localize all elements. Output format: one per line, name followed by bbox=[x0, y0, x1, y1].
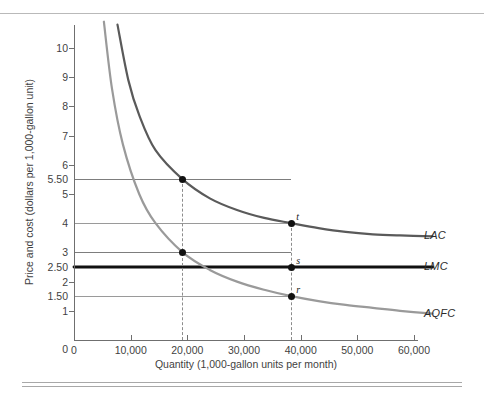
data-point-label-s: s bbox=[296, 255, 300, 266]
y-tick-label-250: 2.50 bbox=[8, 262, 68, 273]
y-tick-label-1: 1 bbox=[8, 306, 68, 317]
y-tick-label-550: 5.50 bbox=[8, 174, 68, 185]
data-point-t bbox=[288, 220, 295, 227]
figure-bottom-rule-upper bbox=[22, 382, 462, 383]
data-point-label-t: t bbox=[296, 211, 299, 222]
data-point-aqfc-20000 bbox=[179, 249, 186, 256]
x-tick-label-60000: 60,000 bbox=[384, 345, 444, 356]
y-tick-10 bbox=[69, 48, 75, 49]
y-tick-label-5: 5 bbox=[8, 189, 68, 200]
x-tick-10000 bbox=[131, 335, 132, 341]
x-axis-title: Quantity (1,000-gallon units per month) bbox=[74, 358, 418, 370]
x-tick-label-30000: 30,000 bbox=[214, 345, 274, 356]
x-tick-50000 bbox=[357, 335, 358, 341]
y-tick-label-4: 4 bbox=[8, 218, 68, 229]
x-tick-label-20000: 20,000 bbox=[157, 345, 217, 356]
figure-panel: 10 9 8 7 6 5.50 5 4 3 2.50 2 1.50 1 0 0 … bbox=[0, 0, 484, 399]
y-axis-title: Price and cost (dollars per 1,000-gallon… bbox=[23, 57, 35, 307]
y-tick-2 bbox=[69, 282, 75, 283]
y-tick-label-7: 7 bbox=[8, 131, 68, 142]
y-tick-label-2: 2 bbox=[8, 277, 68, 288]
x-tick-40000 bbox=[301, 335, 302, 341]
data-point-s bbox=[288, 264, 295, 271]
curve-label-aqfc: AQFC bbox=[424, 307, 455, 319]
y-tick-8 bbox=[69, 106, 75, 107]
figure-bottom-rule-lower bbox=[22, 386, 462, 387]
x-tick-0 bbox=[74, 335, 75, 341]
x-tick-60000 bbox=[414, 335, 415, 341]
y-tick-label-6: 6 bbox=[8, 160, 68, 171]
y-tick-6 bbox=[69, 165, 75, 166]
y-axis-line bbox=[74, 25, 75, 340]
curve-label-lmc: LMC bbox=[424, 260, 448, 272]
x-tick-30000 bbox=[244, 335, 245, 341]
y-tick-1 bbox=[69, 311, 75, 312]
x-tick-label-50000: 50,000 bbox=[327, 345, 387, 356]
x-tick-label-0: 0 bbox=[44, 345, 104, 356]
chart-plot-area: 10 9 8 7 6 5.50 5 4 3 2.50 2 1.50 1 0 0 … bbox=[0, 0, 484, 399]
curve-label-lac: LAC bbox=[424, 229, 446, 241]
data-point-r bbox=[288, 293, 295, 300]
y-tick-label-8: 8 bbox=[8, 101, 68, 112]
curve-lac bbox=[117, 25, 432, 237]
y-tick-label-10: 10 bbox=[8, 43, 68, 54]
x-tick-20000 bbox=[187, 335, 188, 341]
x-tick-label-10000: 10,000 bbox=[101, 345, 161, 356]
x-axis-line bbox=[74, 340, 418, 341]
curve-aqfc bbox=[104, 22, 433, 314]
y-tick-5 bbox=[69, 194, 75, 195]
y-tick-label-150: 1.50 bbox=[8, 291, 68, 302]
y-tick-9 bbox=[69, 77, 75, 78]
data-point-label-r: r bbox=[296, 284, 300, 295]
x-tick-label-40000: 40,000 bbox=[271, 345, 331, 356]
dropline-20000 bbox=[182, 179, 183, 340]
dropline-40000 bbox=[291, 223, 292, 340]
y-tick-7 bbox=[69, 136, 75, 137]
y-tick-label-3: 3 bbox=[8, 247, 68, 258]
data-point-lac-20000 bbox=[179, 176, 186, 183]
y-tick-label-9: 9 bbox=[8, 72, 68, 83]
